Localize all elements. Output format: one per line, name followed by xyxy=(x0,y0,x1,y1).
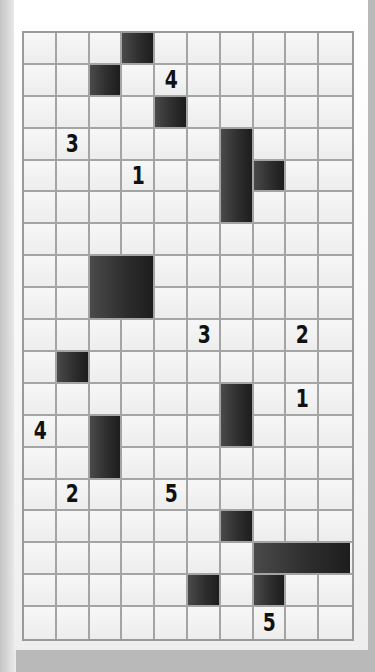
grid-cell[interactable] xyxy=(319,129,352,161)
shaded-cell-block[interactable] xyxy=(188,575,219,605)
grid-cell[interactable] xyxy=(24,384,57,416)
grid-cell[interactable] xyxy=(155,575,188,607)
grid-cell[interactable] xyxy=(24,448,57,480)
grid-cell[interactable] xyxy=(254,511,287,543)
grid-cell[interactable] xyxy=(319,607,352,639)
grid-cell[interactable] xyxy=(90,511,123,543)
shaded-cell-block[interactable] xyxy=(90,416,121,478)
grid-cell[interactable] xyxy=(286,448,319,480)
grid-cell[interactable] xyxy=(24,33,57,65)
grid-cell[interactable] xyxy=(254,256,287,288)
grid-cell[interactable] xyxy=(90,129,123,161)
grid-cell[interactable] xyxy=(24,288,57,320)
grid-cell[interactable] xyxy=(24,97,57,129)
grid-cell[interactable] xyxy=(57,161,90,193)
grid-cell[interactable] xyxy=(155,352,188,384)
grid-cell[interactable] xyxy=(24,575,57,607)
grid-cell[interactable] xyxy=(319,256,352,288)
grid-cell[interactable] xyxy=(188,448,221,480)
grid-cell[interactable] xyxy=(90,607,123,639)
grid-cell[interactable] xyxy=(90,575,123,607)
grid-cell[interactable] xyxy=(286,65,319,97)
grid-cell[interactable] xyxy=(254,192,287,224)
grid-cell[interactable] xyxy=(155,607,188,639)
grid-cell[interactable] xyxy=(57,416,90,448)
grid-cell[interactable] xyxy=(155,320,188,352)
grid-cell[interactable] xyxy=(155,416,188,448)
grid-cell[interactable] xyxy=(24,65,57,97)
grid-cell[interactable] xyxy=(155,192,188,224)
grid-cell[interactable] xyxy=(57,224,90,256)
grid-cell[interactable] xyxy=(57,320,90,352)
grid-cell[interactable] xyxy=(221,575,254,607)
grid-cell[interactable] xyxy=(57,543,90,575)
grid-cell[interactable] xyxy=(155,224,188,256)
grid-cell[interactable] xyxy=(254,352,287,384)
grid-cell[interactable] xyxy=(155,384,188,416)
grid-cell[interactable] xyxy=(155,288,188,320)
grid-cell[interactable] xyxy=(122,543,155,575)
grid-cell[interactable] xyxy=(90,543,123,575)
grid-cell[interactable]: 4 xyxy=(155,65,188,97)
grid-cell[interactable] xyxy=(286,607,319,639)
grid-cell[interactable] xyxy=(221,320,254,352)
grid-cell[interactable] xyxy=(188,192,221,224)
grid-cell[interactable] xyxy=(90,352,123,384)
grid-cell[interactable] xyxy=(122,320,155,352)
grid-cell[interactable] xyxy=(24,129,57,161)
grid-cell[interactable] xyxy=(24,352,57,384)
grid-cell[interactable] xyxy=(319,224,352,256)
grid-cell[interactable] xyxy=(254,416,287,448)
grid-cell[interactable] xyxy=(254,224,287,256)
grid-cell[interactable] xyxy=(122,97,155,129)
grid-cell[interactable] xyxy=(122,352,155,384)
grid-cell[interactable] xyxy=(254,448,287,480)
grid-cell[interactable] xyxy=(254,288,287,320)
shaded-cell-block[interactable] xyxy=(155,97,186,127)
grid-cell[interactable] xyxy=(188,288,221,320)
grid-cell[interactable]: 2 xyxy=(286,320,319,352)
grid-cell[interactable] xyxy=(188,384,221,416)
grid-cell[interactable] xyxy=(221,352,254,384)
grid-cell[interactable] xyxy=(57,65,90,97)
grid-cell[interactable] xyxy=(221,65,254,97)
grid-cell[interactable] xyxy=(221,288,254,320)
grid-cell[interactable] xyxy=(319,97,352,129)
grid-cell[interactable]: 2 xyxy=(57,480,90,512)
grid-cell[interactable] xyxy=(319,448,352,480)
grid-cell[interactable] xyxy=(319,575,352,607)
grid-cell[interactable] xyxy=(122,448,155,480)
grid-cell[interactable] xyxy=(188,607,221,639)
grid-cell[interactable] xyxy=(188,511,221,543)
grid-cell[interactable] xyxy=(90,33,123,65)
grid-cell[interactable] xyxy=(57,575,90,607)
grid-cell[interactable] xyxy=(319,288,352,320)
grid-cell[interactable] xyxy=(221,543,254,575)
grid-cell[interactable] xyxy=(122,192,155,224)
grid-cell[interactable] xyxy=(319,65,352,97)
grid-cell[interactable]: 3 xyxy=(57,129,90,161)
grid-cell[interactable] xyxy=(57,607,90,639)
grid-cell[interactable] xyxy=(57,511,90,543)
grid-cell[interactable] xyxy=(90,320,123,352)
grid-cell[interactable] xyxy=(254,129,287,161)
grid-cell[interactable] xyxy=(155,161,188,193)
grid-cell[interactable] xyxy=(57,448,90,480)
grid-cell[interactable] xyxy=(57,33,90,65)
grid-cell[interactable] xyxy=(122,511,155,543)
grid-cell[interactable] xyxy=(24,161,57,193)
grid-cell[interactable]: 4 xyxy=(24,416,57,448)
grid-cell[interactable] xyxy=(122,65,155,97)
grid-cell[interactable] xyxy=(90,192,123,224)
grid-cell[interactable] xyxy=(286,33,319,65)
grid-cell[interactable] xyxy=(286,511,319,543)
grid-cell[interactable] xyxy=(286,288,319,320)
grid-cell[interactable] xyxy=(155,511,188,543)
grid-cell[interactable] xyxy=(221,480,254,512)
grid-cell[interactable]: 1 xyxy=(122,161,155,193)
grid-cell[interactable] xyxy=(57,256,90,288)
grid-cell[interactable] xyxy=(254,384,287,416)
grid-cell[interactable] xyxy=(286,416,319,448)
grid-cell[interactable] xyxy=(122,384,155,416)
grid-cell[interactable] xyxy=(286,256,319,288)
